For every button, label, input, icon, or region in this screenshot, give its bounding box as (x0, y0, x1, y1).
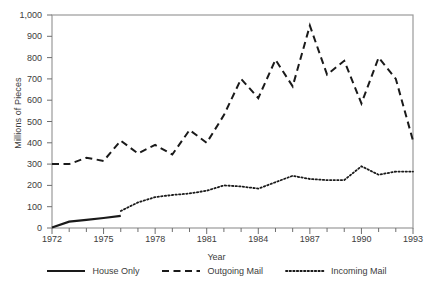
series-line-incoming-mail (121, 166, 413, 211)
y-tick-label: 100 (2, 202, 42, 212)
y-tick-label: 200 (2, 180, 42, 190)
x-tick-label: 1990 (339, 234, 383, 244)
y-tick-label: 300 (2, 159, 42, 169)
x-tick-label: 1987 (288, 234, 332, 244)
plot-frame (52, 15, 413, 228)
y-tick-label: 600 (2, 95, 42, 105)
plot-area (0, 0, 433, 290)
x-tick-label: 1978 (133, 234, 177, 244)
legend-swatch-dotted (285, 266, 325, 276)
legend-label: House Only (92, 266, 139, 276)
legend-label: Outgoing Mail (207, 266, 263, 276)
x-tick-label: 1972 (30, 234, 74, 244)
chart-legend: House OnlyOutgoing MailIncoming Mail (0, 266, 433, 276)
x-tick-label: 1981 (185, 234, 229, 244)
data-series-group (52, 26, 413, 228)
x-axis-title: Year (0, 252, 433, 262)
legend-item-outgoing-mail[interactable]: Outgoing Mail (161, 266, 263, 276)
legend-item-house-only[interactable]: House Only (46, 266, 139, 276)
x-tick-label: 1975 (82, 234, 126, 244)
legend-swatch-solid (46, 266, 86, 276)
y-tick-label: 900 (2, 31, 42, 41)
legend-label: Incoming Mail (331, 266, 387, 276)
chart-container: Millions of Pieces Year 1,00090080070060… (0, 0, 433, 290)
y-tick-label: 1,000 (2, 10, 42, 20)
y-tick-label: 400 (2, 138, 42, 148)
legend-item-incoming-mail[interactable]: Incoming Mail (285, 266, 387, 276)
x-tick-label: 1993 (391, 234, 433, 244)
y-tick-label: 700 (2, 74, 42, 84)
y-tick-label: 500 (2, 117, 42, 127)
y-tick-label: 0 (2, 223, 42, 233)
x-tick-label: 1984 (236, 234, 280, 244)
axis-ticks (47, 15, 413, 234)
series-line-outgoing-mail (52, 26, 413, 164)
y-tick-label: 800 (2, 53, 42, 63)
legend-swatch-dashed (161, 266, 201, 276)
series-line-house-only (52, 216, 121, 228)
